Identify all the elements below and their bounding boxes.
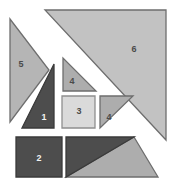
piece-2-label: 2 <box>36 153 41 163</box>
piece-5-label: 5 <box>18 59 23 69</box>
piece-3-label: 3 <box>76 106 81 116</box>
piece-2-group: 2 <box>16 137 62 177</box>
piece-3-group: 3 <box>62 96 95 128</box>
piece-4-upper-label: 4 <box>69 76 74 86</box>
tangram-dissection-diagram: 6 5 1 4 3 4 2 <box>0 0 189 183</box>
piece-1-label: 1 <box>41 112 46 122</box>
tangram-figure-container: 6 5 1 4 3 4 2 <box>0 0 189 183</box>
piece-6-label: 6 <box>131 44 136 54</box>
piece-4-right-label: 4 <box>106 112 111 122</box>
